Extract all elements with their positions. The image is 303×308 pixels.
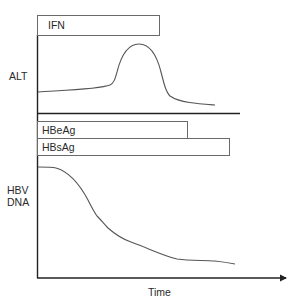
hbv-axis-label-line2: DNA (7, 196, 29, 208)
ifn-label: IFN (48, 19, 65, 31)
hbv-axis-label-line1: HBV (7, 184, 29, 196)
alt-curve (38, 44, 215, 105)
alt-axis-label: ALT (9, 70, 27, 82)
hbv-dna-curve (38, 167, 235, 264)
hbsag-label: HBsAg (42, 141, 75, 153)
hbeag-label: HBeAg (42, 124, 75, 136)
x-axis-label: Time (148, 286, 171, 298)
hbv-treatment-timeline-diagram: IFN HBeAg HBsAg ALT HBV DNA Time (0, 0, 303, 308)
